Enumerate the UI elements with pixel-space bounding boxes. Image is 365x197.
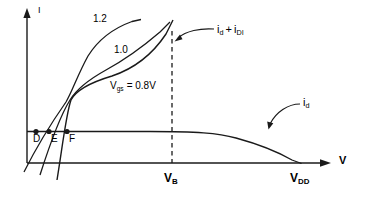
vdd-symbol: V bbox=[290, 171, 298, 185]
callout-arrow-id bbox=[267, 104, 300, 130]
curve-label-1-0: 1.0 bbox=[114, 45, 128, 55]
id-i-subscript: d bbox=[305, 101, 309, 110]
leader-1-2 bbox=[78, 32, 99, 68]
sum-plus-sign: + bbox=[226, 23, 232, 35]
vgs-subscript: gs bbox=[117, 85, 124, 92]
vb-subscript: B bbox=[172, 177, 178, 186]
sum-i-subscript-di: DI bbox=[236, 28, 243, 37]
operating-point-label-e: E bbox=[51, 134, 58, 144]
curve-label-vgs: Vgs= 0.8V bbox=[110, 81, 156, 91]
x-axis-arrowhead bbox=[320, 159, 331, 166]
y-axis-arrowhead bbox=[23, 8, 30, 18]
y-axis-label: I bbox=[38, 6, 41, 15]
curve-vgs-1-0 bbox=[40, 22, 170, 175]
x-axis-label: V bbox=[339, 155, 346, 166]
figure-container: I V 1.2 1.0 Vgs= 0.8V id+iDI id D E F VB… bbox=[0, 0, 365, 197]
leader-vgs bbox=[122, 60, 150, 82]
curve-vgs-1-2 bbox=[24, 20, 141, 173]
vgs-value: = 0.8V bbox=[127, 80, 156, 91]
vdd-subscript: DD bbox=[298, 177, 309, 186]
vb-symbol: V bbox=[164, 171, 172, 185]
curve-label-1-2: 1.2 bbox=[93, 14, 107, 24]
series-label-id-plus-idi: id+iDI bbox=[217, 24, 244, 35]
series-label-id: id bbox=[303, 97, 310, 108]
plot-canvas bbox=[0, 0, 365, 197]
operating-point-label-f: F bbox=[69, 134, 75, 144]
sum-i-subscript-d: d bbox=[219, 28, 223, 37]
x-tick-label-vb: VB bbox=[164, 172, 178, 184]
vgs-symbol: V bbox=[110, 80, 117, 91]
callout-arrow-sum bbox=[175, 29, 215, 42]
x-tick-label-vdd: VDD bbox=[290, 172, 309, 184]
operating-point-label-d: D bbox=[33, 134, 40, 144]
